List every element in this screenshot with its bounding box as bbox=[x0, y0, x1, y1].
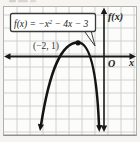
vertex-point bbox=[75, 40, 80, 45]
vertex-coordinates-label: (−2, 1) bbox=[33, 41, 59, 52]
y-axis-label: f(x) bbox=[108, 11, 123, 23]
textbook-function-graph-figure: f(x) = −x2 − 4x − 3 (−2, 1) f(x) O x bbox=[0, 0, 140, 142]
equation-label: f(x) = −x2 − 4x − 3 bbox=[14, 18, 88, 30]
x-axis-label: x bbox=[128, 57, 134, 68]
graph-canvas: f(x) = −x2 − 4x − 3 (−2, 1) f(x) O x bbox=[0, 0, 140, 142]
origin-label: O bbox=[108, 58, 115, 69]
cropped-text-fragment bbox=[9, 0, 36, 2]
